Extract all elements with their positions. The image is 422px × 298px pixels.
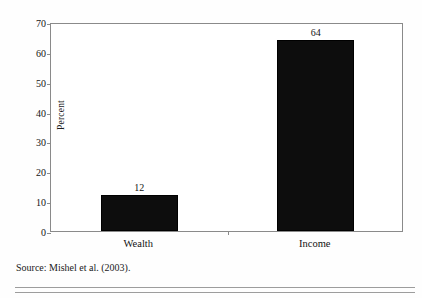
y-tick-mark-10 — [47, 203, 51, 204]
y-tick-label-30: 30 — [28, 138, 46, 148]
plot-frame: Percent 0102030405060701264 — [50, 23, 403, 232]
bar-income — [277, 40, 354, 231]
y-tick-mark-40 — [47, 114, 51, 115]
y-tick-mark-20 — [47, 173, 51, 174]
x-tick-mark-1 — [228, 231, 229, 235]
bar-value-label-income: 64 — [296, 28, 336, 38]
footer-rule-upper — [15, 287, 415, 288]
y-tick-label-10: 10 — [28, 198, 46, 208]
y-tick-label-40: 40 — [28, 109, 46, 119]
y-tick-label-50: 50 — [28, 79, 46, 89]
plot-area: 0102030405060701264 — [51, 24, 402, 231]
y-tick-mark-60 — [47, 54, 51, 55]
footer-rule-lower — [15, 292, 415, 293]
y-tick-label-20: 20 — [28, 168, 46, 178]
figure-container: Percent 0102030405060701264 WealthIncome… — [0, 0, 422, 298]
x-axis-label-income: Income — [270, 238, 360, 250]
bar-wealth — [101, 195, 178, 231]
y-tick-mark-0 — [47, 233, 51, 234]
x-axis-label-wealth: Wealth — [93, 238, 183, 250]
source-note: Source: Mishel et al. (2003). — [16, 262, 130, 274]
y-tick-mark-30 — [47, 143, 51, 144]
y-tick-mark-70 — [47, 24, 51, 25]
y-tick-label-0: 0 — [28, 228, 46, 238]
bar-value-label-wealth: 12 — [119, 183, 159, 193]
y-tick-mark-50 — [47, 84, 51, 85]
y-tick-label-70: 70 — [28, 19, 46, 29]
y-tick-label-60: 60 — [28, 49, 46, 59]
